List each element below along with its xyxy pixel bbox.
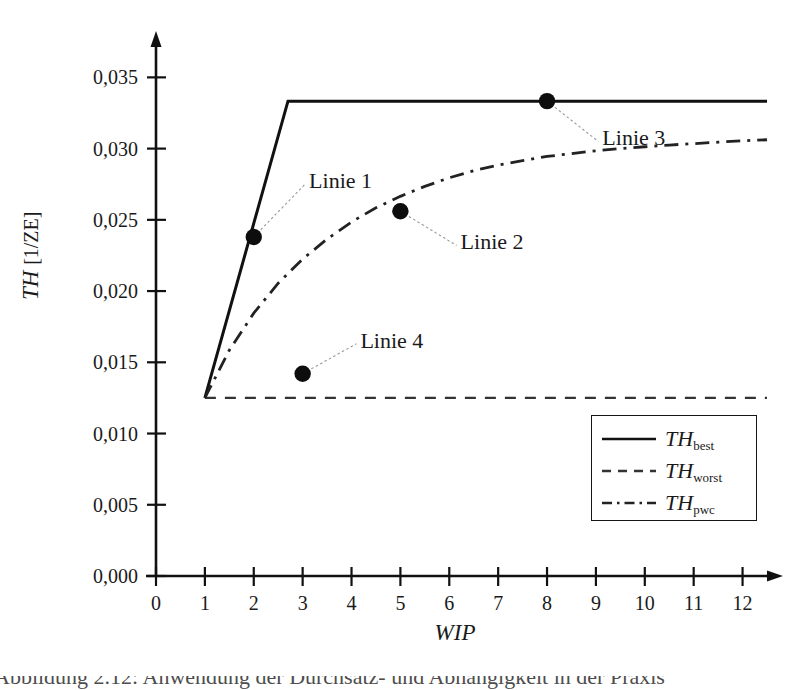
x-tick-label: 8 bbox=[542, 592, 552, 615]
y-tick-label: 0,010 bbox=[0, 422, 138, 445]
legend-sample-dashdot bbox=[601, 496, 657, 510]
legend-entry: THbest bbox=[601, 423, 747, 455]
figure-caption-text: Abbildung 2.12: Anwendung der Durchsatz-… bbox=[0, 676, 665, 690]
x-tick-label: 3 bbox=[298, 592, 308, 615]
figure-caption-strip: Abbildung 2.12: Anwendung der Durchsatz-… bbox=[0, 676, 803, 690]
y-tick-label: 0,030 bbox=[0, 137, 138, 160]
legend-entry: THpwc bbox=[601, 487, 747, 519]
x-tick-label: 1 bbox=[200, 592, 210, 615]
legend-label-th-best: THbest bbox=[665, 426, 714, 452]
annotation-label-4: Linie 4 bbox=[360, 328, 423, 354]
y-tick-label: 0,015 bbox=[0, 351, 138, 374]
x-axis-title: WIP bbox=[435, 620, 476, 646]
x-tick-label: 10 bbox=[635, 592, 655, 615]
legend-label-th-pwc: THpwc bbox=[665, 490, 715, 516]
y-tick-label: 0,005 bbox=[0, 493, 138, 516]
leader-line bbox=[547, 101, 598, 141]
y-axis-title-unit: [1/ZE] bbox=[20, 212, 42, 265]
y-axis-title-symbol: TH bbox=[18, 271, 43, 300]
leader-line bbox=[303, 344, 357, 374]
series-line-th-pwc bbox=[205, 140, 767, 398]
data-point-marker bbox=[246, 229, 262, 245]
x-tick-label: 2 bbox=[249, 592, 259, 615]
y-axis-arrow-icon bbox=[151, 31, 162, 47]
data-point-marker bbox=[539, 93, 555, 109]
data-point-marker bbox=[294, 365, 310, 381]
x-axis-arrow-icon bbox=[767, 571, 783, 582]
leader-line bbox=[400, 211, 456, 245]
chart-legend: THbest THworst THpwc bbox=[591, 415, 757, 521]
legend-entry: THworst bbox=[601, 455, 747, 487]
y-tick-label: 0,000 bbox=[0, 565, 138, 588]
legend-sample-solid bbox=[601, 432, 657, 446]
chart-figure: 0,0000,0050,0100,0150,0200,0250,0300,035… bbox=[0, 0, 803, 690]
annotation-leader-lines bbox=[254, 101, 599, 374]
y-tick-label: 0,035 bbox=[0, 66, 138, 89]
legend-sample-dashed bbox=[601, 464, 657, 478]
annotation-label-3: Linie 3 bbox=[602, 125, 665, 151]
y-axis-title: TH [1/ZE] bbox=[18, 212, 44, 300]
x-tick-label: 5 bbox=[395, 592, 405, 615]
annotation-label-1: Linie 1 bbox=[309, 168, 372, 194]
x-tick-label: 6 bbox=[444, 592, 454, 615]
legend-label-th-worst: THworst bbox=[665, 458, 722, 484]
x-tick-label: 9 bbox=[591, 592, 601, 615]
x-tick-label: 4 bbox=[347, 592, 357, 615]
x-tick-label: 12 bbox=[733, 592, 753, 615]
data-point-marker bbox=[392, 203, 408, 219]
x-tick-label: 11 bbox=[684, 592, 703, 615]
x-tick-label: 7 bbox=[493, 592, 503, 615]
x-tick-label: 0 bbox=[151, 592, 161, 615]
annotation-label-2: Linie 2 bbox=[461, 229, 524, 255]
